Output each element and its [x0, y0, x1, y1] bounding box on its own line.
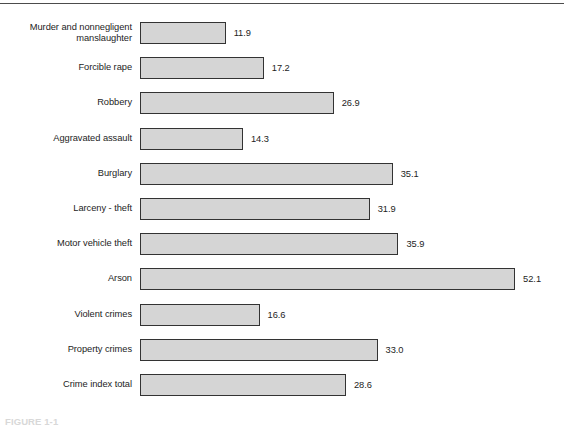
bar-row: Motor vehicle theft35.9: [0, 233, 564, 255]
bar: [140, 304, 260, 326]
bar-row: Crime index total28.6: [0, 374, 564, 396]
bar-chart-plot-area: Murder and nonnegligent manslaughter11.9…: [0, 0, 564, 410]
bar: [140, 57, 264, 79]
bar-row: Aggravated assault14.3: [0, 128, 564, 150]
category-label: Motor vehicle theft: [4, 238, 132, 249]
bar-row: Forcible rape17.2: [0, 57, 564, 79]
bar-value-label: 31.9: [378, 204, 396, 215]
bar: [140, 374, 346, 396]
bar: [140, 339, 378, 361]
bar: [140, 128, 243, 150]
category-label: Burglary: [4, 168, 132, 179]
bar-value-label: 35.9: [406, 239, 424, 250]
bar-value-label: 17.2: [272, 63, 290, 74]
bar-row: Larceny - theft31.9: [0, 198, 564, 220]
category-label: Larceny - theft: [4, 203, 132, 214]
bar-value-label: 35.1: [401, 168, 419, 179]
figure-container: Murder and nonnegligent manslaughter11.9…: [0, 0, 564, 427]
bar-value-label: 52.1: [523, 274, 541, 285]
bar-row: Robbery26.9: [0, 92, 564, 114]
bar: [140, 268, 515, 290]
category-label: Murder and nonnegligent manslaughter: [4, 22, 132, 45]
bar: [140, 233, 398, 255]
bar-row: Property crimes33.0: [0, 339, 564, 361]
bar-row: Violent crimes16.6: [0, 304, 564, 326]
category-label: Aggravated assault: [4, 133, 132, 144]
bar-value-label: 11.9: [234, 28, 251, 39]
bar-value-label: 33.0: [386, 344, 404, 355]
bar: [140, 22, 226, 44]
category-label: Robbery: [4, 98, 132, 109]
category-label: Crime index total: [4, 379, 132, 390]
bar-row: Arson52.1: [0, 268, 564, 290]
bar-value-label: 28.6: [354, 380, 372, 391]
bar: [140, 198, 370, 220]
bar-row: Burglary35.1: [0, 163, 564, 185]
category-label: Forcible rape: [4, 62, 132, 73]
bar-row: Murder and nonnegligent manslaughter11.9: [0, 22, 564, 44]
bar-value-label: 16.6: [268, 309, 286, 320]
bar-value-label: 26.9: [342, 98, 360, 109]
figure-caption: FIGURE 1-1: [5, 416, 58, 427]
bar: [140, 163, 393, 185]
bar-value-label: 14.3: [251, 133, 269, 144]
category-label: Property crimes: [4, 344, 132, 355]
bar: [140, 92, 334, 114]
category-label: Arson: [4, 274, 132, 285]
category-label: Violent crimes: [4, 309, 132, 320]
